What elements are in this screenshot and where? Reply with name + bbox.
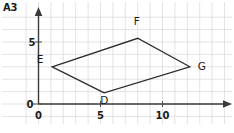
x-axis-arrowhead [223,100,232,108]
vertex-label-e: E [37,53,44,65]
vertex-label-f: F [134,15,140,27]
polygon-shape [52,38,190,93]
vertex-label-g: G [198,60,206,72]
coordinate-plot: 051005 DEFG [0,0,234,133]
tick-labels: 051005 [27,37,170,122]
vertex-label-d: D [100,94,108,106]
y-tick-label: 5 [29,37,36,48]
graph-figure: A3 051005 DEFG [0,0,234,133]
parallelogram-outline [52,38,190,93]
x-tick-label: 5 [97,110,104,121]
x-tick-label: 0 [35,110,42,121]
x-tick-label: 10 [156,110,170,121]
y-axis-arrowhead [35,7,43,16]
y-tick-label: 0 [27,99,34,110]
vertex-labels: DEFG [37,15,206,106]
